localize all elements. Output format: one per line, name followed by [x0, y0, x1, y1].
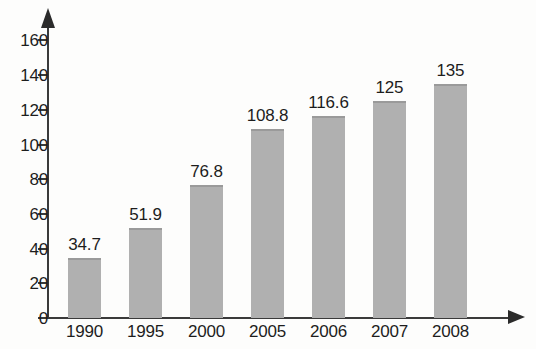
- bar: [190, 185, 223, 318]
- x-axis-tick-label: 2006: [299, 323, 359, 340]
- y-axis-arrow-icon: [41, 8, 55, 28]
- y-axis-tick-label: 140: [14, 67, 48, 84]
- x-axis-tick-label: 2007: [360, 323, 420, 340]
- y-axis-tick-label: 80: [14, 171, 48, 188]
- bar-value-label: 51.9: [116, 206, 176, 223]
- x-axis-tick-label: 2005: [238, 323, 298, 340]
- x-axis-tick-label: 2008: [421, 323, 481, 340]
- y-axis-tick-label: 0: [14, 310, 48, 327]
- y-axis-tick-label: 40: [14, 241, 48, 258]
- bar-value-label: 125: [360, 79, 420, 96]
- y-axis-tick-label: 20: [14, 275, 48, 292]
- y-axis-tick-label: 160: [14, 32, 48, 49]
- bar-value-label: 135: [421, 62, 481, 79]
- x-axis-tick-label: 2000: [177, 323, 237, 340]
- bar: [68, 258, 101, 318]
- bar-value-label: 116.6: [299, 94, 359, 111]
- bar: [129, 228, 162, 318]
- bar: [312, 116, 345, 318]
- x-axis-arrow-icon: [508, 310, 525, 324]
- bar-value-label: 34.7: [55, 236, 115, 253]
- bar: [251, 129, 284, 318]
- bar: [434, 84, 467, 318]
- x-axis-tick-label: 1995: [116, 323, 176, 340]
- y-axis-tick-label: 100: [14, 137, 48, 154]
- bar-value-label: 108.8: [238, 107, 298, 124]
- bar: [373, 101, 406, 318]
- bar-value-label: 76.8: [177, 163, 237, 180]
- y-axis-tick-label: 60: [14, 206, 48, 223]
- bar-chart: 020406080100120140160 34.7199051.9199576…: [0, 0, 536, 349]
- y-axis-tick-label: 120: [14, 102, 48, 119]
- x-axis-tick-label: 1990: [55, 323, 115, 340]
